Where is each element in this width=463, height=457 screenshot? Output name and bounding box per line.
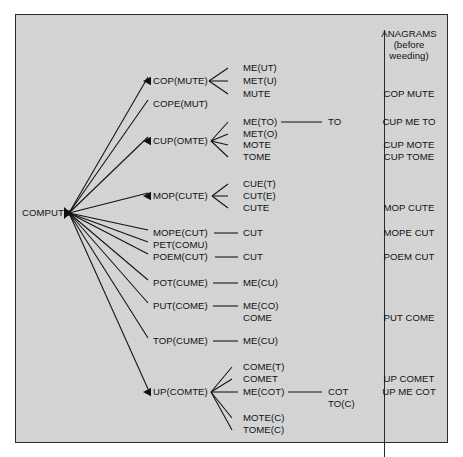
fan-edge-pot [69,213,148,280]
anagram-item-up-comet: UP COMET [384,374,435,384]
node-l2-cut: CUT [243,228,263,238]
fan-edge-put [69,213,148,303]
anagram-item-poem-cut: POEM CUT [383,252,434,262]
sub-edge-15 [211,367,232,392]
node-l2-me-ut-: ME(UT) [243,63,277,73]
node-l2-tome: TOME [243,152,271,162]
node-l1-up: UP(COMTE) [153,387,208,397]
node-l2-come-t-: COME(T) [243,362,284,372]
node-l2-me-cu-: ME(CU) [243,278,278,288]
sub-edge-3 [211,122,228,141]
fan-edge-cop [69,77,148,213]
anagrams-header-line-1: (before [394,40,425,50]
node-l3-to: TO [328,117,341,127]
anagram-item-mop-cute: MOP CUTE [384,203,435,213]
node-root-compute: COMPUTE [22,208,70,218]
node-l2-cut: CUT [243,252,263,262]
node-l1-top: TOP(CUME) [153,336,208,346]
arrowhead-3 [143,388,151,396]
node-l2-cue-t-: CUE(T) [243,179,276,189]
node-l2-me-co-: ME(CO) [243,301,278,311]
sub-edge-9 [212,196,228,208]
node-l2-tome-c-: TOME(C) [243,425,284,435]
sub-edge-18 [211,392,232,418]
anagram-item-cop-mute: COP MUTE [384,89,435,99]
node-l2-me-to-: ME(TO) [243,117,277,127]
anagram-item-cup-me-to: CUP ME TO [382,117,435,127]
node-l1-mope: MOPE(CUT) [153,228,208,238]
anagrams-header-line-0: ANAGRAMS [381,29,436,39]
fan-edge-up [69,213,148,389]
fan-edge-top [69,213,148,338]
sub-edge-0 [209,68,228,81]
node-l1-cope: COPE(MUT) [153,99,208,109]
node-l2-me-cot-: ME(COT) [243,387,284,397]
node-l1-poem: POEM(CUT) [153,252,208,262]
anagram-item-up-me-cot: UP ME COT [382,387,436,397]
anagram-item-cup-mote: CUP MOTE [384,140,435,150]
sub-edge-2 [209,81,228,94]
node-l1-cup: CUP(OMTE) [153,136,208,146]
node-l2-cut-e-: CUT(E) [243,191,276,201]
sub-edge-7 [212,184,228,196]
anagram-item-mope-cut: MOPE CUT [383,228,434,238]
node-l2-cute: CUTE [243,203,269,213]
node-l2-mote-c-: MOTE(C) [243,413,284,423]
fan-edge-poem [69,213,148,254]
sub-edge-16 [211,379,232,392]
node-l2-mote: MOTE [243,140,271,150]
node-l2-comet: COMET [243,374,278,384]
node-l1-mop: MOP(CUTE) [153,191,208,201]
node-l2-mute: MUTE [243,89,270,99]
node-l2-met-u-: MET(U) [243,76,277,86]
node-l3-cot: COT [328,387,348,397]
node-l1-put: PUT(COME) [153,301,208,311]
node-l2-me-cu-: ME(CU) [243,336,278,346]
node-l1-cop: COP(MUTE) [153,76,208,86]
node-l2-met-o-: MET(O) [243,129,277,139]
node-l1-pet: PET(COMU) [153,240,208,250]
sub-edge-19 [211,392,232,430]
anagram-item-cup-tome: CUP TOME [384,152,435,162]
anagrams-header-line-2: weeding) [389,51,428,61]
node-l2-come: COME [243,313,272,323]
node-l3-to-c-: TO(C) [328,399,355,409]
node-l1-pot: POT(CUME) [153,278,208,288]
fan-edge-cup [69,137,148,213]
anagram-item-put-come: PUT COME [384,313,435,323]
